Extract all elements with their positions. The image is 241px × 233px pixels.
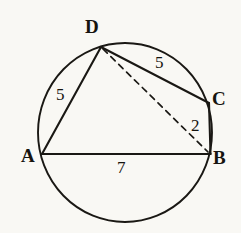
length-label-DC: 5 bbox=[155, 54, 164, 71]
vertex-label-B: B bbox=[213, 148, 226, 167]
circumscribed-circle bbox=[38, 43, 212, 222]
geometry-figure: A B C D 5 5 2 7 bbox=[0, 0, 241, 233]
length-label-AB: 7 bbox=[117, 159, 126, 176]
vertex-label-A: A bbox=[21, 146, 35, 165]
geometry-canvas bbox=[0, 0, 241, 233]
length-label-CB: 2 bbox=[191, 117, 200, 134]
length-label-AD: 5 bbox=[56, 86, 65, 103]
segment-CB bbox=[209, 103, 211, 154]
vertex-label-C: C bbox=[212, 89, 226, 108]
vertex-label-D: D bbox=[85, 17, 99, 36]
